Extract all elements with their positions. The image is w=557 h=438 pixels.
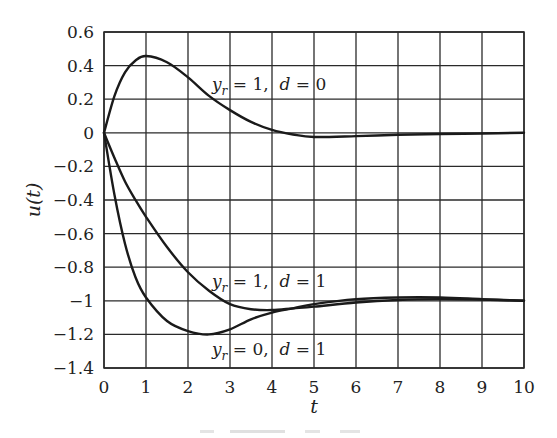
- y-tick-label: 0.4: [67, 56, 94, 76]
- caption-fragment: [190, 430, 370, 433]
- x-tick-label: 4: [267, 377, 278, 397]
- y-axis-label: u(t): [22, 183, 44, 218]
- y-tick-label: −0.6: [53, 224, 94, 244]
- y-tick-label: 0: [83, 123, 94, 143]
- curve-label-yr1-d1: yr = 1, d = 1: [211, 271, 326, 295]
- y-tick-label: −0.4: [53, 190, 94, 210]
- x-tick-label: 2: [183, 377, 194, 397]
- y-tick-label: −1: [69, 291, 94, 311]
- x-axis-label: t: [310, 395, 318, 417]
- y-tick-label: 0.2: [67, 89, 94, 109]
- x-tick-label: 5: [309, 377, 320, 397]
- curve-label-yr0-d1: yr = 0, d = 1: [211, 339, 326, 363]
- curve-label-yr1-d0: yr = 1, d = 0: [211, 74, 326, 98]
- y-tick-label: 0.6: [67, 22, 94, 42]
- x-tick-label: 0: [99, 377, 110, 397]
- x-tick-labels: 012345678910: [99, 377, 535, 397]
- y-tick-label: −1.4: [53, 358, 94, 378]
- x-tick-label: 10: [513, 377, 535, 397]
- x-tick-label: 1: [141, 377, 152, 397]
- x-tick-label: 3: [225, 377, 236, 397]
- chart: 0.60.40.20−0.2−0.4−0.6−0.8−1−1.2−1.4 012…: [0, 0, 557, 438]
- y-tick-labels: 0.60.40.20−0.2−0.4−0.6−0.8−1−1.2−1.4: [53, 22, 94, 378]
- x-tick-label: 8: [435, 377, 446, 397]
- x-tick-label: 6: [351, 377, 362, 397]
- y-tick-label: −1.2: [53, 324, 94, 344]
- x-tick-label: 7: [393, 377, 404, 397]
- x-tick-label: 9: [477, 377, 488, 397]
- y-tick-label: −0.2: [53, 156, 94, 176]
- y-tick-label: −0.8: [53, 257, 94, 277]
